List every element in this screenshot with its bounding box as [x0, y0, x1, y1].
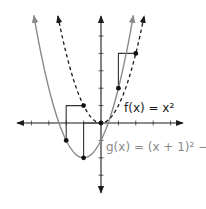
label-g: g(x) = (x + 1)² − 2: [106, 140, 206, 154]
label-f: f(x) = x²: [124, 101, 174, 115]
point-g: [81, 155, 86, 160]
point-g: [64, 138, 69, 143]
coordinate-graph: f(x) = x² g(x) = (x + 1)² − 2: [0, 0, 206, 209]
point-f: [99, 121, 104, 126]
point-f: [133, 51, 138, 56]
point-g: [116, 86, 121, 91]
point-f: [81, 103, 86, 108]
